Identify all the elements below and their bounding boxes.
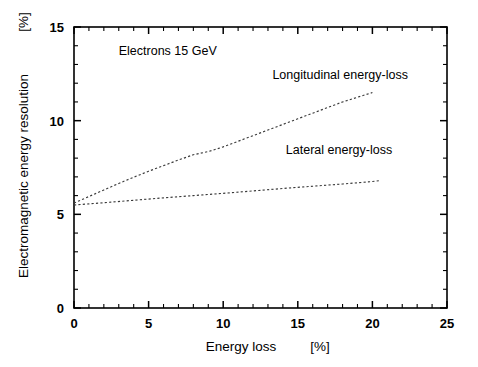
y-tick-label: 15 (50, 20, 64, 35)
y-tick-label: 5 (57, 207, 64, 222)
y-tick-labels: 051015 (50, 20, 64, 316)
y-tick-label: 0 (57, 301, 64, 316)
y-tick-label: 10 (50, 114, 64, 129)
x-tick-label: 0 (70, 316, 77, 331)
x-axis-title: Energy loss (206, 339, 277, 354)
y-axis-unit: [%] (16, 12, 31, 32)
x-tick-label: 25 (440, 316, 454, 331)
annotation-label: Longitudinal energy-loss (272, 68, 408, 82)
chart-annotations: Electrons 15 GeVLongitudinal energy-loss… (119, 44, 408, 157)
chart-figure: 0510152025 051015 Electrons 15 GeVLongit… (0, 0, 478, 367)
x-tick-label: 5 (145, 316, 152, 331)
y-axis-title: Electromagnetic energy resolution (16, 74, 31, 278)
x-tick-label: 15 (291, 316, 305, 331)
annotation-label: Lateral energy-loss (286, 143, 392, 157)
curve-lateral-energy-loss (74, 181, 380, 205)
x-tick-label: 10 (216, 316, 230, 331)
x-axis-unit: [%] (310, 339, 330, 354)
x-tick-labels: 0510152025 (70, 316, 454, 331)
x-tick-label: 20 (365, 316, 379, 331)
chart-svg: 0510152025 051015 Electrons 15 GeVLongit… (0, 0, 478, 367)
annotation-label: Electrons 15 GeV (119, 44, 218, 58)
